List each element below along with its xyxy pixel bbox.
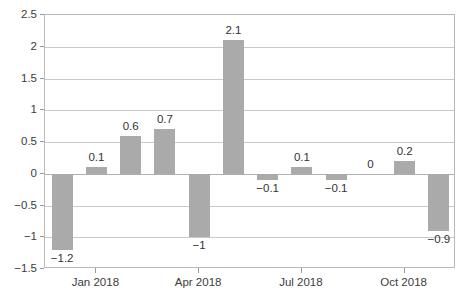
bar xyxy=(257,174,278,180)
bar xyxy=(120,136,141,174)
y-tick-label: −1 xyxy=(24,230,37,242)
bar-value-label: −1.2 xyxy=(51,252,74,264)
x-tick-label: Jul 2018 xyxy=(279,276,322,288)
y-tick-label: 2 xyxy=(31,40,37,52)
y-tick-mark xyxy=(40,268,44,269)
bar xyxy=(394,161,415,174)
bar-value-label: 2.1 xyxy=(225,24,241,36)
y-tick-label: −0.5 xyxy=(14,199,37,211)
y-tick-label: 2.5 xyxy=(21,8,37,20)
x-tick-mark xyxy=(198,268,199,273)
bar xyxy=(86,167,107,173)
bar-value-label: 0.7 xyxy=(157,113,173,125)
bar-value-label: 0.2 xyxy=(397,145,413,157)
x-tick-mark xyxy=(95,268,96,273)
gridline xyxy=(45,174,454,175)
bar-value-label: −0.9 xyxy=(428,233,451,245)
bar xyxy=(52,174,73,250)
gridline xyxy=(45,110,454,111)
gridline xyxy=(45,237,454,238)
bar-value-label: −1 xyxy=(193,239,206,251)
x-tick-mark xyxy=(404,268,405,273)
bar xyxy=(154,129,175,173)
gridline xyxy=(45,79,454,80)
bar xyxy=(223,40,244,173)
bar-value-label: 0 xyxy=(367,158,373,170)
x-tick-label: Apr 2018 xyxy=(175,276,222,288)
y-tick-label: 1.5 xyxy=(21,72,37,84)
x-tick-label: Oct 2018 xyxy=(380,276,427,288)
bar xyxy=(428,174,449,231)
bar-value-label: −0.1 xyxy=(256,182,279,194)
bar xyxy=(189,174,210,238)
bar xyxy=(326,174,347,180)
y-tick-label: 0 xyxy=(31,167,37,179)
bar-value-label: −0.1 xyxy=(325,182,348,194)
y-tick-label: 1 xyxy=(31,103,37,115)
bar xyxy=(291,167,312,173)
bar-value-label: 0.1 xyxy=(88,151,104,163)
gridline xyxy=(45,47,454,48)
bar-value-label: 0.1 xyxy=(294,151,310,163)
x-tick-mark xyxy=(301,268,302,273)
gridline xyxy=(45,142,454,143)
y-tick-label: 0.5 xyxy=(21,135,37,147)
x-tick-label: Jan 2018 xyxy=(72,276,119,288)
bar-chart: 2.521.510.50−0.5−1−1.5 −1.20.10.60.7−12.… xyxy=(0,0,475,297)
gridline xyxy=(45,206,454,207)
y-axis: 2.521.510.50−0.5−1−1.5 xyxy=(0,0,44,297)
plot-area: −1.20.10.60.7−12.1−0.10.1−0.100.2−0.9 xyxy=(44,14,455,268)
y-tick-label: −1.5 xyxy=(14,262,37,274)
bar-value-label: 0.6 xyxy=(123,120,139,132)
